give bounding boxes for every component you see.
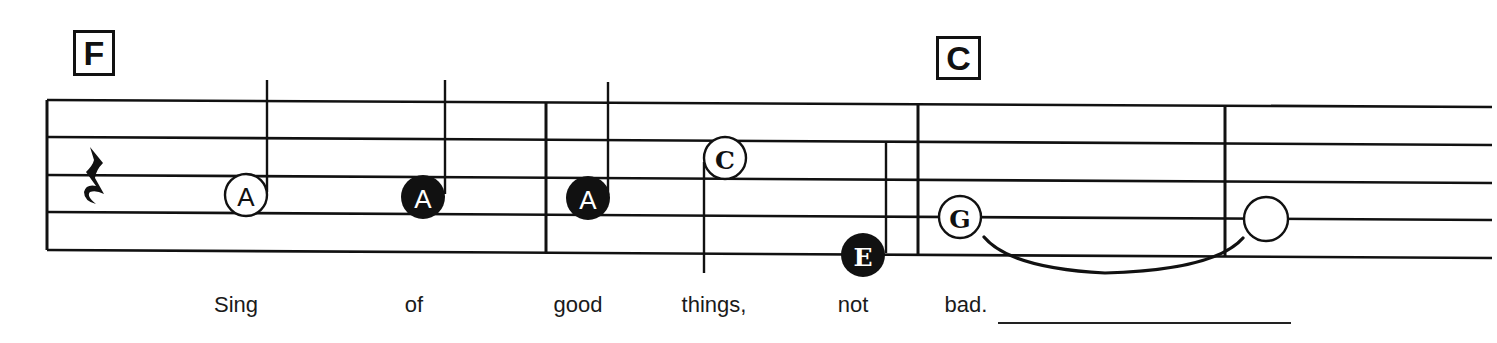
lyric-good: good	[554, 292, 603, 318]
svg-text:A: A	[414, 184, 432, 214]
lyric-sing: Sing	[214, 292, 258, 318]
lyric-of: of	[405, 292, 423, 318]
svg-text:E: E	[853, 243, 872, 272]
chord-label-c: C	[936, 36, 981, 80]
svg-text:G: G	[949, 205, 970, 234]
note-g: G	[939, 196, 981, 238]
note-tied-empty	[1244, 197, 1288, 241]
svg-text:A: A	[579, 185, 597, 215]
lyric-extender-line	[998, 322, 1291, 324]
chord-letter: F	[84, 34, 105, 73]
lyric-things: things,	[682, 292, 747, 318]
chord-letter: C	[946, 39, 971, 78]
chord-label-f: F	[73, 30, 115, 76]
svg-text:C: C	[715, 146, 735, 175]
lyric-bad: bad.	[945, 292, 988, 318]
lyric-not: not	[838, 292, 869, 318]
svg-text:A: A	[237, 182, 255, 212]
note-e: E	[841, 143, 886, 277]
